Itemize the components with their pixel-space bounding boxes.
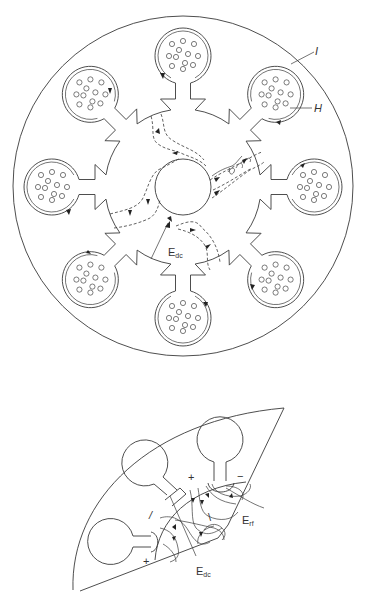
electrode-pad [24,159,79,215]
sector-outer-arc [73,408,284,590]
bottom-figure-sector: + − / \ + Erf Edc [73,408,284,591]
field-arrows [172,493,233,541]
edc-label: Edc [168,246,183,259]
particle-trajectories [110,114,264,270]
erf-pointer-line [226,488,264,508]
hub-outline [79,83,287,291]
electrode-pad [155,291,211,346]
label-minus: − [237,470,243,482]
top-figure: Edc I H [13,16,353,356]
label-h: H [314,102,322,114]
trajectory-arrows [66,73,305,307]
electrode-pad [62,66,118,122]
label-slash: / [148,509,153,521]
electrode-pad [248,252,304,308]
label-slash-small: \ [208,511,212,523]
label-plus-bottom: + [143,555,149,567]
central-hub [79,83,287,291]
electrode-pad [287,159,342,215]
label-plus-top: + [188,471,194,483]
label-i: I [315,45,318,57]
electrode-pad [248,66,304,122]
diagram-canvas: Edc I H [0,0,366,595]
electrode-pads [24,28,342,346]
electrode-pad [62,252,118,308]
edc-label-sector: Edc [196,565,211,578]
edc-pointer-line [151,223,168,259]
erf-label: Erf [242,514,254,527]
